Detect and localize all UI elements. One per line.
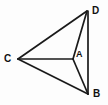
segment-AB (73, 59, 88, 94)
vertex-label-c: C (4, 54, 11, 64)
segment-CB (18, 59, 88, 94)
vertex-label-b: B (93, 89, 100, 99)
vertex-label-a: A (76, 50, 83, 59)
vertex-label-d: D (92, 6, 99, 16)
geometry-figure: D B C A (0, 0, 108, 105)
